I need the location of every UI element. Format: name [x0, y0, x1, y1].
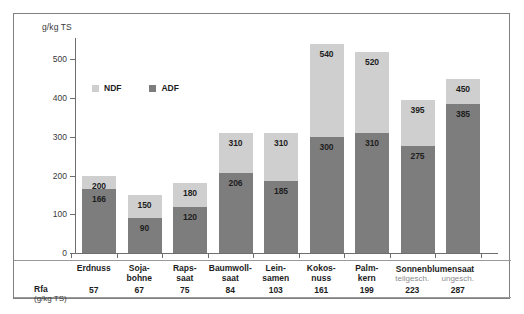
- category-line1: Soja-: [129, 263, 150, 273]
- bar-segment-ndf[interactable]: 200: [82, 176, 116, 189]
- category-line2: saat: [222, 273, 239, 283]
- x-tick-0: [71, 253, 72, 258]
- bar-segment-adf[interactable]: 90: [128, 218, 162, 253]
- bar-segment-ndf[interactable]: 395: [401, 100, 435, 147]
- bar-label-adf: 120: [173, 212, 207, 222]
- category-line1: Baumwoll-: [209, 263, 252, 273]
- plot-area: g/kg TS 5004003002001000 NDF ADF 20: [14, 14, 511, 300]
- x-tick-4: [253, 253, 254, 258]
- bar-group[interactable]: 450385: [446, 79, 480, 253]
- rfa-value-3: 84: [208, 285, 254, 295]
- bar-label-adf: 385: [446, 109, 480, 119]
- bar-label-ndf: 310: [219, 138, 253, 148]
- category-line2: saat: [176, 273, 193, 283]
- bar-group[interactable]: 395275: [401, 100, 435, 253]
- x-tick-5: [299, 253, 300, 258]
- rfa-value-0: 57: [71, 285, 117, 295]
- x-tick-9: [481, 253, 482, 258]
- bar-segment-ndf[interactable]: 310: [264, 133, 298, 181]
- category-line1: Lein-: [266, 263, 286, 273]
- category-line1: Palm-: [355, 263, 378, 273]
- bar-label-adf: 300: [310, 142, 344, 152]
- bar-label-ndf: 520: [355, 57, 389, 67]
- group-label-sonnenblumensaat: Sonnenblumensaat: [390, 264, 481, 274]
- chart-frame: g/kg TS 5004003002001000 NDF ADF 20: [13, 13, 510, 299]
- table-divider-top: [14, 260, 511, 261]
- bar-label-ndf: 180: [173, 188, 207, 198]
- x-tick-1: [117, 253, 118, 258]
- rfa-label-text: Rfa: [34, 284, 48, 294]
- bar-label-adf: 185: [264, 186, 298, 196]
- category-sublabel: teilgesch.: [390, 274, 436, 284]
- category-label-3: Baumwoll-saat: [208, 264, 254, 283]
- x-tick-7: [390, 253, 391, 258]
- bar-segment-ndf[interactable]: 310: [219, 133, 253, 173]
- bar-label-adf: 310: [355, 138, 389, 148]
- bar-segment-adf[interactable]: 120: [173, 207, 207, 254]
- rfa-value-8: 287: [435, 285, 481, 295]
- x-tick-2: [162, 253, 163, 258]
- rfa-value-5: 161: [299, 285, 345, 295]
- bar-segment-adf[interactable]: 185: [264, 181, 298, 253]
- bars-layer: 2001661509018012031020631018554030052031…: [14, 14, 511, 253]
- bar-group[interactable]: 520310: [355, 52, 389, 254]
- bar-label-adf: 90: [128, 223, 162, 233]
- category-line1: Erdnuss: [77, 263, 111, 273]
- bar-label-ndf: 450: [446, 84, 480, 94]
- bar-group[interactable]: 200166: [82, 176, 116, 254]
- bar-segment-adf[interactable]: 310: [355, 133, 389, 253]
- group-label-text: Sonnenblumensaat: [396, 264, 474, 274]
- category-label-5: Kokos-nuss: [299, 264, 345, 283]
- bar-group[interactable]: 310185: [264, 133, 298, 253]
- category-line2: bohne: [127, 273, 153, 283]
- bar-segment-ndf[interactable]: 180: [173, 183, 207, 206]
- rfa-value-2: 75: [162, 285, 208, 295]
- bar-group[interactable]: 180120: [173, 183, 207, 253]
- category-line2: nuss: [311, 273, 331, 283]
- bar-segment-adf[interactable]: 385: [446, 104, 480, 253]
- bar-label-ndf: 540: [310, 49, 344, 59]
- category-line1: Raps-: [173, 263, 197, 273]
- chart-figure: g/kg TS 5004003002001000 NDF ADF 20: [0, 0, 524, 314]
- category-label-4: Lein-samen: [253, 264, 299, 283]
- bar-segment-adf[interactable]: 300: [310, 137, 344, 253]
- x-tick-8: [435, 253, 436, 258]
- bar-label-ndf: 395: [401, 105, 435, 115]
- category-label-6: Palm-kern: [344, 264, 390, 283]
- table-divider-bottom: [14, 297, 511, 298]
- x-tick-6: [344, 253, 345, 258]
- bar-segment-ndf[interactable]: 520: [355, 52, 389, 133]
- x-tick-3: [208, 253, 209, 258]
- category-line2: kern: [358, 273, 376, 283]
- category-line2: samen: [262, 273, 289, 283]
- bar-group[interactable]: 15090: [128, 195, 162, 253]
- category-sublabel: ungesch.: [435, 274, 481, 284]
- bar-label-ndf: 150: [128, 200, 162, 210]
- bar-group[interactable]: 540300: [310, 44, 344, 253]
- bar-segment-adf[interactable]: 206: [219, 173, 253, 253]
- bar-segment-adf[interactable]: 275: [401, 146, 435, 253]
- bar-segment-ndf[interactable]: 150: [128, 195, 162, 218]
- bar-label-adf: 166: [82, 194, 116, 204]
- category-line1: Kokos-: [307, 263, 336, 273]
- rfa-value-6: 199: [344, 285, 390, 295]
- bar-segment-ndf[interactable]: 450: [446, 79, 480, 104]
- rfa-value-1: 67: [117, 285, 163, 295]
- bar-group[interactable]: 310206: [219, 133, 253, 253]
- category-label-0: Erdnuss: [71, 264, 117, 274]
- bar-label-ndf: 310: [264, 138, 298, 148]
- bar-segment-ndf[interactable]: 540: [310, 44, 344, 137]
- rfa-value-7: 223: [390, 285, 436, 295]
- bar-label-adf: 275: [401, 151, 435, 161]
- rfa-value-4: 103: [253, 285, 299, 295]
- rfa-label-unit: (g/kg TS): [34, 294, 67, 304]
- bar-segment-adf[interactable]: 166: [82, 189, 116, 253]
- category-label-1: Soja-bohne: [117, 264, 163, 283]
- category-label-2: Raps-saat: [162, 264, 208, 283]
- rfa-row-label: Rfa (g/kg TS): [34, 284, 67, 304]
- bar-label-adf: 206: [219, 178, 253, 188]
- x-axis-line: [70, 253, 498, 254]
